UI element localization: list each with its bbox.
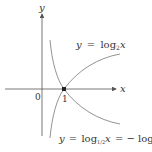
origin-label: 0 [35,92,41,102]
label-log-half: y = log1/2x = − log2x [58,133,152,145]
graph-canvas: y x 0 1 y = log2x y = log1/2x = − log2x [0,0,152,152]
point-1-0 [62,87,66,91]
x-axis-label: x [120,83,126,94]
tick-label-1: 1 [62,94,68,104]
y-axis-label: y [38,2,45,13]
log-graph-diagram: y x 0 1 y = log2x y = log1/2x = − log2x [0,0,152,152]
label-log2: y = log2x [75,39,126,51]
curve-log-half [50,89,120,138]
